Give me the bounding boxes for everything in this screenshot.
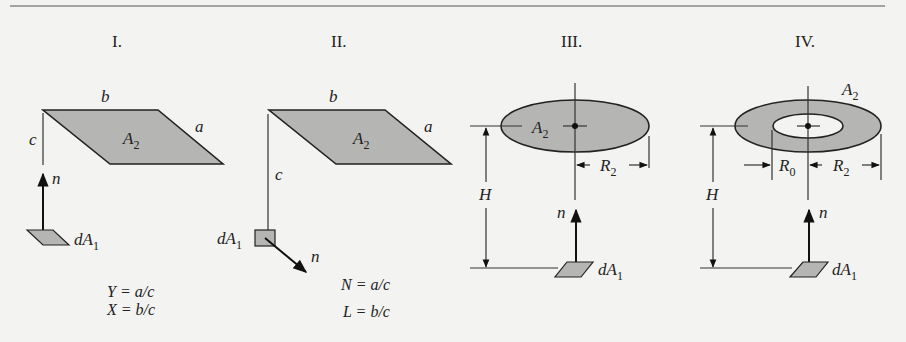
panel-4-label-h: H <box>705 185 720 204</box>
panel-4-label-element: dA1 <box>832 260 857 283</box>
panel-2-equation-n: N = a/c <box>340 276 390 293</box>
panel-3-label-h: H <box>478 185 493 204</box>
panel-3-element-da1 <box>555 262 593 277</box>
panel-4-title: IV. <box>795 32 815 51</box>
panel-1-title: I. <box>112 32 122 51</box>
view-factor-configurations-diagram: I. b a A2 c n dA1 Y = a/c X = b/c II. b … <box>0 0 906 342</box>
panel-2-label-c: c <box>275 165 283 184</box>
panel-3: III. A2 R2 H n dA1 <box>470 32 649 283</box>
panel-4: IV. A2 R0 R2 H n dA1 <box>700 32 881 283</box>
panel-2-normal-arrow <box>265 238 306 272</box>
panel-3-label-r2: R2 <box>599 156 616 179</box>
panel-2-label-a: a <box>424 117 433 136</box>
panel-4-label-area: A2 <box>841 80 858 103</box>
panel-2: II. b a A2 c dA1 n N = a/c L = b/c <box>217 32 451 320</box>
panel-4-center-dot <box>805 123 811 129</box>
panel-4-label-r2: R2 <box>832 156 849 179</box>
panel-3-label-element: dA1 <box>598 260 623 283</box>
panel-2-label-n: n <box>311 247 320 266</box>
panel-2-label-element: dA1 <box>217 229 242 252</box>
panel-2-label-b: b <box>329 87 338 106</box>
panel-1-equation-x: X = b/c <box>106 301 155 318</box>
panel-2-title: II. <box>331 32 347 51</box>
panel-4-label-n: n <box>819 203 828 222</box>
panel-3-title: III. <box>561 32 582 51</box>
panel-1: I. b a A2 c n dA1 Y = a/c X = b/c <box>27 32 223 318</box>
panel-3-label-n: n <box>557 203 566 222</box>
panel-1-label-c: c <box>29 130 37 149</box>
panel-3-center-dot <box>572 123 578 129</box>
panel-1-element-da1 <box>27 230 69 245</box>
panel-4-label-r0: R0 <box>778 156 795 179</box>
panel-1-label-b: b <box>101 87 110 106</box>
panel-1-label-n: n <box>52 169 61 188</box>
panel-1-label-element: dA1 <box>74 230 99 253</box>
panel-4-element-da1 <box>790 262 828 277</box>
panel-1-label-a: a <box>195 117 204 136</box>
panel-1-equation-y: Y = a/c <box>107 283 154 300</box>
panel-2-equation-l: L = b/c <box>342 303 390 320</box>
